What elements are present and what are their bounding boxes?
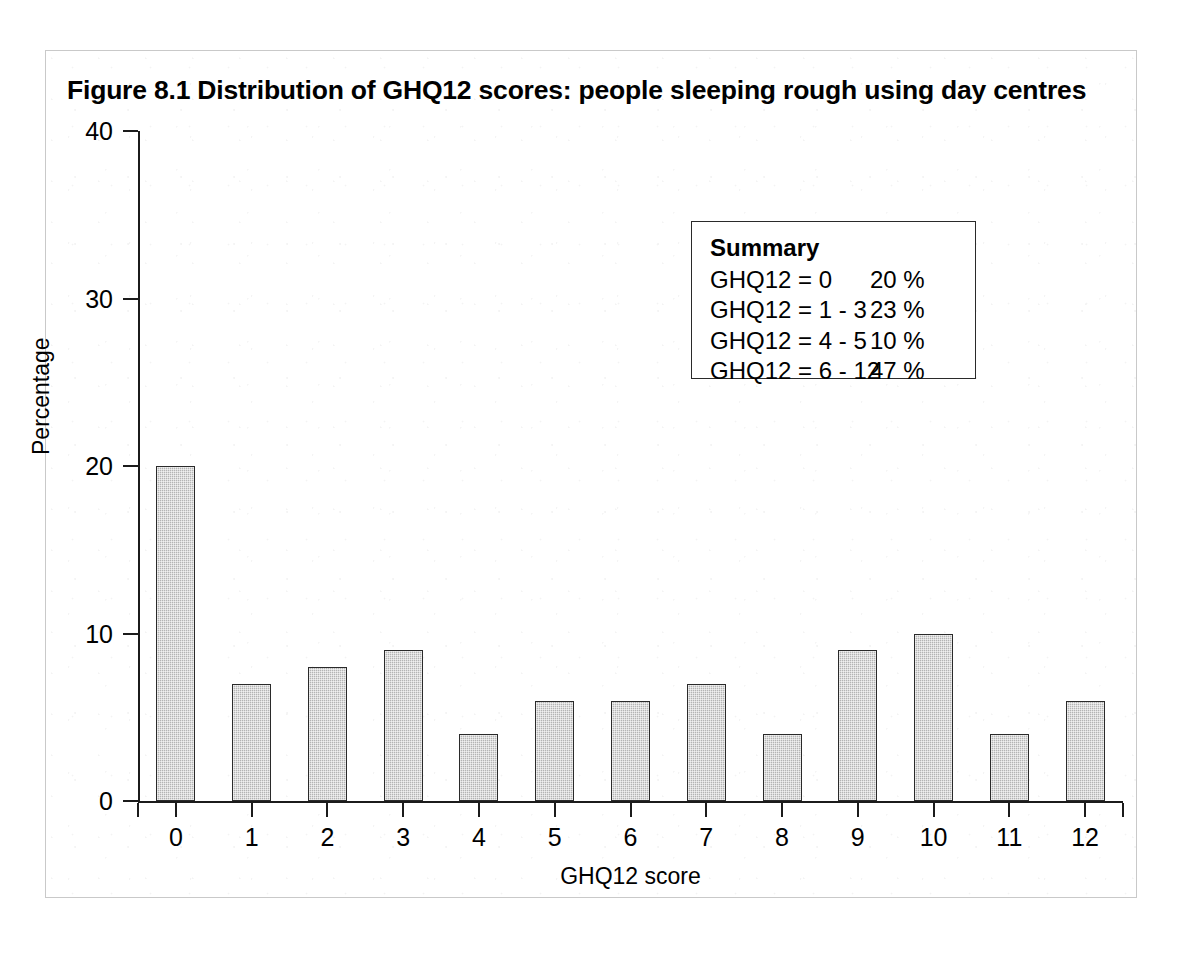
bar	[763, 734, 802, 801]
x-axis-tick	[326, 803, 328, 817]
paper-texture	[46, 51, 1136, 897]
summary-row-value: 47 %	[870, 356, 925, 386]
y-axis-tick	[123, 298, 138, 300]
x-axis-tick-label: 1	[245, 823, 259, 852]
x-axis-tick-label: 2	[320, 823, 334, 852]
summary-row-value: 10 %	[870, 326, 925, 356]
x-axis-tick	[1122, 803, 1124, 817]
x-axis-tick-label: 7	[699, 823, 713, 852]
bar	[687, 684, 726, 801]
x-axis-tick-label: 4	[472, 823, 486, 852]
y-axis-tick-label: 10	[53, 619, 113, 648]
x-axis-title: GHQ12 score	[138, 863, 1123, 890]
summary-row-label: GHQ12 = 4 - 5	[710, 326, 870, 356]
y-axis-tick-label: 30	[53, 284, 113, 313]
bar	[232, 684, 271, 801]
x-axis-tick	[630, 803, 632, 817]
bar	[1066, 701, 1105, 802]
summary-row-label: GHQ12 = 6 - 12	[710, 356, 870, 386]
x-axis-tick-label: 9	[851, 823, 865, 852]
x-axis-tick-label: 5	[548, 823, 562, 852]
y-axis-tick-label: 40	[53, 117, 113, 146]
bar	[156, 466, 195, 801]
summary-box: Summary GHQ12 = 020 %GHQ12 = 1 - 323 %GH…	[691, 221, 976, 379]
x-axis-tick	[1084, 803, 1086, 817]
x-axis-tick-label: 10	[920, 823, 948, 852]
summary-row: GHQ12 = 6 - 1247 %	[710, 356, 975, 386]
x-axis-tick	[137, 803, 139, 817]
bar	[611, 701, 650, 802]
x-axis-tick	[251, 803, 253, 817]
x-axis-tick-label: 3	[396, 823, 410, 852]
x-axis-tick	[781, 803, 783, 817]
x-axis-tick	[857, 803, 859, 817]
y-axis-tick-label: 20	[53, 452, 113, 481]
y-axis-tick	[123, 633, 138, 635]
x-axis-tick	[175, 803, 177, 817]
x-axis-tick-label: 11	[996, 823, 1022, 852]
x-axis-tick-label: 12	[1071, 823, 1099, 852]
x-axis-tick	[554, 803, 556, 817]
bar	[384, 650, 423, 801]
summary-row-value: 23 %	[870, 295, 925, 325]
page-title: Figure 8.1 Distribution of GHQ12 scores:…	[67, 75, 1086, 106]
y-axis-tick-label: 0	[53, 787, 113, 816]
x-axis-tick	[705, 803, 707, 817]
y-axis-tick	[123, 800, 138, 802]
summary-row: GHQ12 = 020 %	[710, 265, 975, 295]
summary-rows: GHQ12 = 020 %GHQ12 = 1 - 323 %GHQ12 = 4 …	[710, 265, 975, 387]
x-axis-tick	[933, 803, 935, 817]
bar	[308, 667, 347, 801]
bar	[990, 734, 1029, 801]
summary-row: GHQ12 = 1 - 323 %	[710, 295, 975, 325]
bar	[914, 634, 953, 802]
x-axis-tick	[1008, 803, 1010, 817]
bar	[838, 650, 877, 801]
x-axis-tick-label: 8	[775, 823, 789, 852]
summary-row-label: GHQ12 = 0	[710, 265, 870, 295]
x-axis-tick	[402, 803, 404, 817]
y-axis-title: Percentage	[28, 337, 55, 455]
x-axis-tick	[478, 803, 480, 817]
y-axis-tick	[123, 465, 138, 467]
x-axis-tick-label: 6	[624, 823, 638, 852]
summary-row: GHQ12 = 4 - 510 %	[710, 326, 975, 356]
figure-frame: Figure 8.1 Distribution of GHQ12 scores:…	[45, 50, 1137, 898]
bar	[535, 701, 574, 802]
bar	[459, 734, 498, 801]
y-axis-tick	[123, 130, 138, 132]
x-axis-tick-label: 0	[169, 823, 183, 852]
summary-heading: Summary	[710, 234, 975, 262]
y-axis-line	[138, 131, 140, 802]
summary-row-value: 20 %	[870, 265, 925, 295]
summary-row-label: GHQ12 = 1 - 3	[710, 295, 870, 325]
